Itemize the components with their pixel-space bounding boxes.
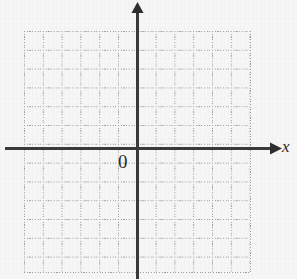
x-axis-label: x xyxy=(282,138,290,155)
y-axis-arrowhead xyxy=(132,2,144,13)
origin-label: 0 xyxy=(118,152,128,171)
coordinate-plane-graphic xyxy=(0,0,297,279)
figure-canvas: 0 x xyxy=(0,0,297,279)
x-axis-arrowhead xyxy=(270,143,282,155)
